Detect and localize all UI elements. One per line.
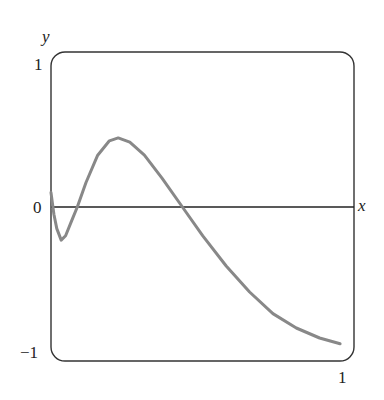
y-axis-label: y [42, 28, 50, 45]
x-tick-1: 1 [338, 369, 347, 386]
data-curve [51, 138, 340, 344]
y-tick-neg1: −1 [20, 344, 38, 361]
y-tick-1: 1 [34, 56, 43, 73]
chart-canvas [0, 0, 384, 400]
x-axis-label: x [358, 197, 366, 214]
y-tick-0: 0 [33, 199, 42, 216]
